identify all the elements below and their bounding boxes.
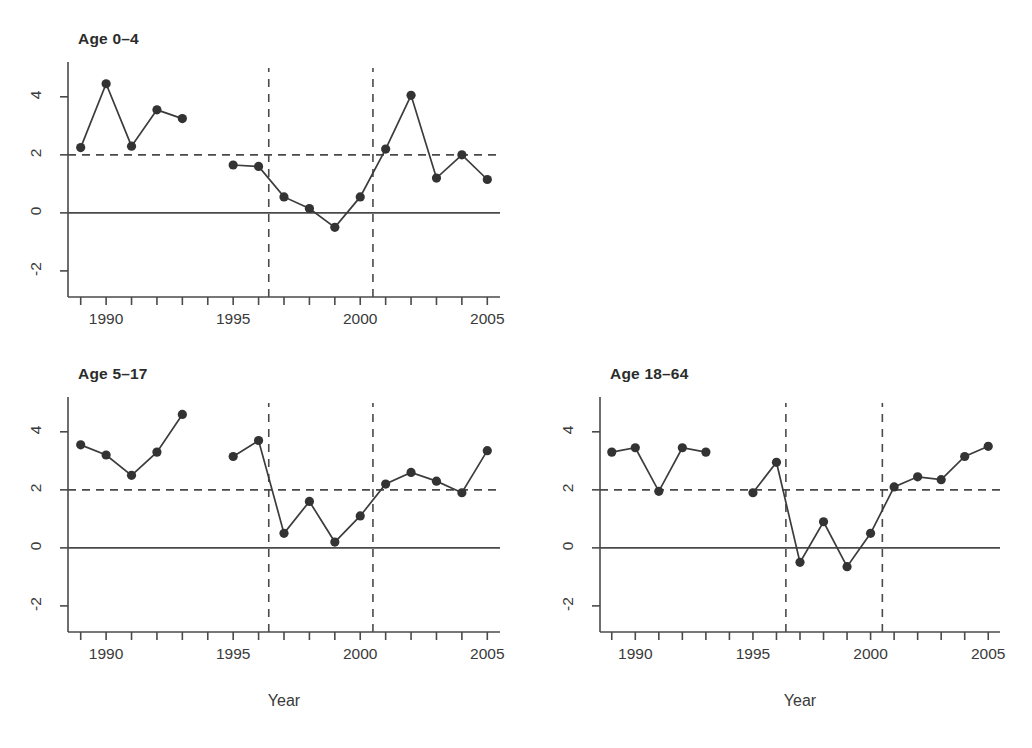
x-axis-label-age-18-64: Year bbox=[770, 692, 830, 710]
data-point bbox=[890, 482, 899, 491]
data-point bbox=[937, 475, 946, 484]
x-tick-label: 1995 bbox=[723, 645, 783, 663]
data-point bbox=[748, 488, 757, 497]
data-point bbox=[984, 442, 993, 451]
x-tick-label: 2005 bbox=[958, 645, 1018, 663]
data-point bbox=[795, 558, 804, 567]
figure-canvas: Age 0–41990199520002005-2024Age 5–171990… bbox=[0, 0, 1032, 748]
data-point bbox=[654, 487, 663, 496]
data-point bbox=[913, 472, 922, 481]
data-point bbox=[819, 517, 828, 526]
data-point bbox=[772, 458, 781, 467]
chart-panel-age-18-64: Age 18–641990199520002005-2024Year bbox=[0, 0, 1032, 748]
data-point bbox=[960, 452, 969, 461]
data-point bbox=[701, 448, 710, 457]
data-point bbox=[866, 529, 875, 538]
y-tick-label: -2 bbox=[559, 590, 577, 618]
data-point bbox=[842, 562, 851, 571]
y-tick-label: 4 bbox=[559, 416, 577, 444]
data-point bbox=[631, 443, 640, 452]
data-point bbox=[678, 443, 687, 452]
plot-area-age-18-64 bbox=[0, 0, 1032, 748]
x-tick-label: 2000 bbox=[841, 645, 901, 663]
y-tick-label: 2 bbox=[559, 474, 577, 502]
data-point bbox=[607, 448, 616, 457]
data-line-segment-1 bbox=[612, 448, 706, 492]
y-tick-label: 0 bbox=[559, 532, 577, 560]
x-tick-label: 1990 bbox=[605, 645, 665, 663]
panel-title-age-18-64: Age 18–64 bbox=[610, 365, 689, 383]
